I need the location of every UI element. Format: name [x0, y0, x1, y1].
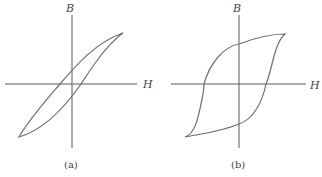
- panel-a: B H (a): [5, 2, 153, 170]
- caption-a: (a): [64, 159, 78, 170]
- y-axis-label-a: B: [65, 2, 74, 15]
- caption-b: (b): [231, 159, 245, 170]
- panel-b: B H (b): [171, 2, 320, 170]
- x-axis-label-a: H: [142, 78, 153, 91]
- x-axis-label-b: H: [309, 79, 320, 92]
- hysteresis-loop-b: [185, 34, 285, 137]
- hysteresis-loop-a: [19, 33, 123, 137]
- hysteresis-diagram: B H (a) B H (b): [0, 0, 322, 177]
- y-axis-label-b: B: [232, 2, 241, 15]
